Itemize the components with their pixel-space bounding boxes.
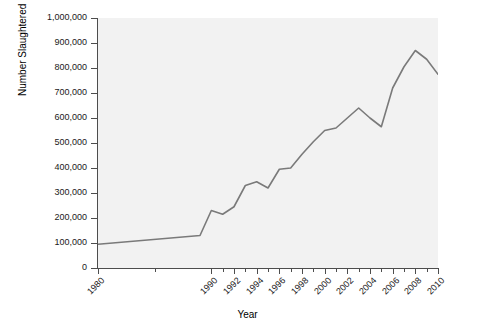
- x-axis-tick: [347, 269, 348, 274]
- y-axis-tick-label: 1,000,000: [47, 13, 87, 22]
- y-axis-tick-label: 400,000: [54, 163, 87, 172]
- x-axis-minor-tick: [359, 269, 360, 272]
- x-axis-minor-tick: [427, 269, 428, 272]
- x-axis-minor-tick: [268, 269, 269, 272]
- y-axis-tick: [91, 68, 97, 69]
- y-axis-tick-label: 0: [82, 263, 87, 272]
- y-axis-tick: [91, 193, 97, 194]
- x-axis-minor-tick: [404, 269, 405, 272]
- x-axis-minor-tick: [291, 269, 292, 272]
- x-axis-tick: [98, 269, 99, 274]
- y-axis-tick: [91, 168, 97, 169]
- x-axis-tick: [393, 269, 394, 274]
- x-axis-minor-tick: [313, 269, 314, 272]
- y-axis-tick: [91, 218, 97, 219]
- x-axis-minor-tick: [245, 269, 246, 272]
- x-axis-title: Year: [0, 310, 495, 320]
- y-axis-tick-label: 100,000: [54, 238, 87, 247]
- y-axis-title: Number Slaughtered: [18, 4, 28, 96]
- y-axis-tick: [91, 143, 97, 144]
- x-axis-tick: [257, 269, 258, 274]
- x-axis-tick: [415, 269, 416, 274]
- x-axis-tick: [234, 269, 235, 274]
- plot-area: [98, 18, 438, 268]
- y-axis-tick: [91, 93, 97, 94]
- x-axis-tick: [279, 269, 280, 274]
- x-axis-tick: [302, 269, 303, 274]
- x-axis-tick: [211, 269, 212, 274]
- x-axis-minor-tick: [223, 269, 224, 272]
- y-axis-tick: [91, 268, 97, 269]
- y-axis-tick: [91, 43, 97, 44]
- x-axis-minor-tick: [155, 269, 156, 272]
- y-axis-tick-label: 500,000: [54, 138, 87, 147]
- y-axis-tick-label: 600,000: [54, 113, 87, 122]
- line-series-svg: [98, 18, 438, 268]
- chart-figure: 0100,000200,000300,000400,000500,000600,…: [0, 0, 495, 330]
- y-axis-tick: [91, 243, 97, 244]
- y-axis-tick-label: 700,000: [54, 88, 87, 97]
- y-axis-tick: [91, 18, 97, 19]
- y-axis-tick-label: 800,000: [54, 63, 87, 72]
- x-axis-tick: [370, 269, 371, 274]
- y-axis-tick-label: 300,000: [54, 188, 87, 197]
- x-axis-tick: [438, 269, 439, 274]
- x-axis-minor-tick: [381, 269, 382, 272]
- y-axis-line: [97, 18, 98, 269]
- x-axis-tick: [325, 269, 326, 274]
- x-axis-minor-tick: [336, 269, 337, 272]
- y-axis-tick-label: 200,000: [54, 213, 87, 222]
- y-axis-tick-label: 900,000: [54, 38, 87, 47]
- series-line-number-slaughtered: [98, 51, 438, 245]
- y-axis-tick: [91, 118, 97, 119]
